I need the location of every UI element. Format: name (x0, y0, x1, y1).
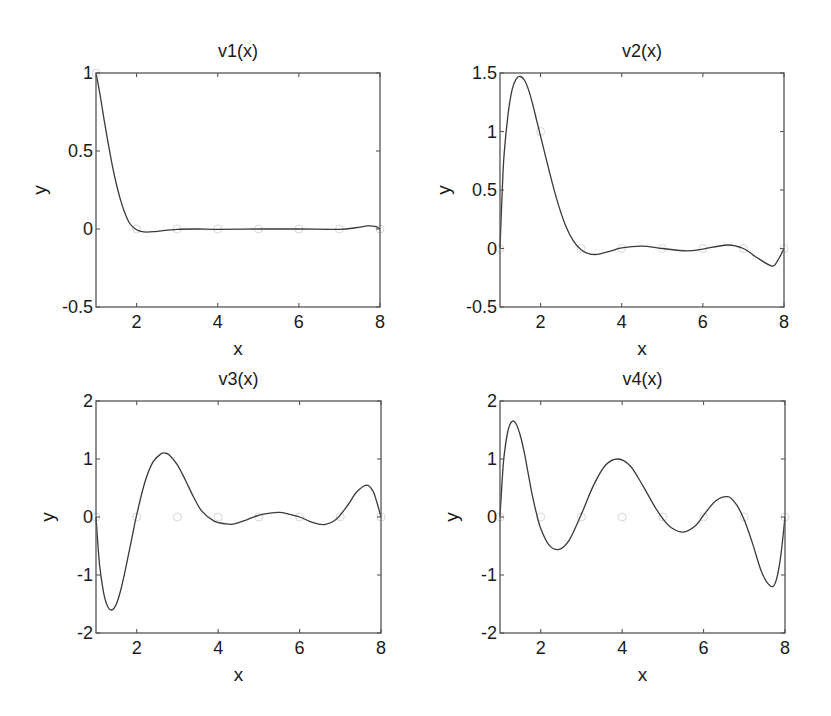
y-tick-label: 1 (487, 122, 497, 142)
x-axis-label: x (234, 664, 244, 685)
y-axis-label: y (441, 512, 462, 522)
x-axis-label: x (637, 338, 647, 359)
y-tick-label: 0.5 (472, 180, 497, 200)
y-tick-label: -0.5 (466, 297, 497, 317)
subplot-title: v4(x) (623, 369, 663, 389)
axes-frame (500, 401, 785, 633)
x-tick-label: 2 (536, 638, 546, 658)
x-tick-label: 4 (617, 638, 627, 658)
y-tick-label: 2 (487, 391, 497, 411)
x-tick-label: 6 (698, 312, 708, 332)
y-axis-label: y (29, 185, 50, 195)
x-tick-label: 2 (132, 312, 142, 332)
x-tick-label: 8 (375, 312, 385, 332)
subplot-title: v1(x) (218, 41, 258, 61)
figure: v1(x) x y 2468-0.500.51 v2(x) x y 2468-0… (0, 0, 831, 716)
x-tick-label: 2 (132, 638, 142, 658)
axes-frame (96, 73, 380, 307)
series-line-v2 (500, 76, 784, 266)
x-tick-label: 2 (536, 312, 546, 332)
subplot-title: v2(x) (622, 41, 662, 61)
series-line-v1 (96, 73, 380, 232)
subplot-v3: v3(x) x y 2468-2-1012 (37, 369, 386, 685)
y-tick-label: -2 (77, 623, 93, 643)
sample-marker (214, 513, 222, 521)
y-tick-label: 0 (83, 507, 93, 527)
x-tick-label: 6 (294, 312, 304, 332)
y-tick-label: -1 (481, 565, 497, 585)
x-tick-label: 6 (295, 638, 305, 658)
subplot-title: v3(x) (219, 369, 259, 389)
x-tick-label: 4 (213, 638, 223, 658)
y-tick-label: -1 (77, 565, 93, 585)
y-tick-label: -0.5 (62, 297, 93, 317)
x-tick-label: 8 (780, 638, 790, 658)
x-tick-label: 8 (779, 312, 789, 332)
y-tick-label: 1.5 (472, 63, 497, 83)
x-axis-label: x (233, 338, 243, 359)
x-axis-label: x (638, 664, 648, 685)
subplot-v2: v2(x) x y 2468-0.500.511.5 (433, 41, 789, 359)
y-tick-label: 1 (487, 449, 497, 469)
x-tick-label: 6 (699, 638, 709, 658)
y-tick-label: 0 (487, 239, 497, 259)
y-tick-label: 2 (83, 391, 93, 411)
y-tick-label: 0 (487, 507, 497, 527)
y-tick-label: 0.5 (68, 141, 93, 161)
subplot-v1: v1(x) x y 2468-0.500.51 (29, 41, 385, 359)
subplot-v4: v4(x) x y 2468-2-1012 (441, 369, 790, 685)
sample-marker (173, 513, 181, 521)
sample-marker (133, 225, 141, 233)
y-tick-label: 1 (83, 449, 93, 469)
y-tick-label: 0 (83, 219, 93, 239)
x-tick-label: 4 (617, 312, 627, 332)
y-tick-label: -2 (481, 623, 497, 643)
x-tick-label: 8 (376, 638, 386, 658)
y-axis-label: y (433, 185, 454, 195)
series-line-v3 (96, 453, 381, 610)
series-line-v4 (500, 421, 785, 587)
y-axis-label: y (37, 512, 58, 522)
sample-marker (618, 513, 626, 521)
y-tick-label: 1 (83, 63, 93, 83)
x-tick-label: 4 (213, 312, 223, 332)
axes-frame (500, 73, 784, 307)
